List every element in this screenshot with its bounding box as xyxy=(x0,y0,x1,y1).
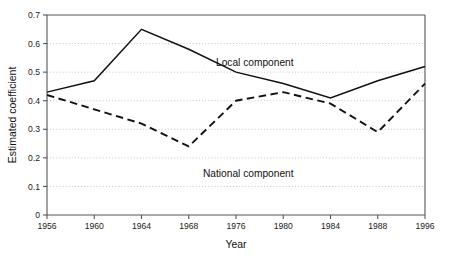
x-axis-ticks xyxy=(47,215,425,219)
x-tick-label: 1988 xyxy=(368,221,387,231)
x-tick-label: 1976 xyxy=(226,221,245,231)
y-tick-label: 0.4 xyxy=(28,96,40,106)
x-tick-label: 1984 xyxy=(321,221,340,231)
x-tick-label: 1956 xyxy=(37,221,56,231)
series-national-component xyxy=(47,84,425,147)
x-tick-label: 1980 xyxy=(274,221,293,231)
x-tick-label: 1968 xyxy=(179,221,198,231)
y-tick-label: 0.1 xyxy=(28,182,40,192)
line-chart: 195619601964196819761980198419881996 00.… xyxy=(0,0,450,263)
series-label-local-component: Local component xyxy=(216,57,294,68)
y-tick-label: 0.3 xyxy=(28,124,40,134)
x-tick-labels: 195619601964196819761980198419881996 xyxy=(37,221,434,231)
axes xyxy=(47,15,425,215)
y-tick-label: 0 xyxy=(35,210,40,220)
y-tick-label: 0.7 xyxy=(28,10,40,20)
y-axis-ticks xyxy=(43,15,47,215)
y-tick-labels: 00.10.20.30.40.50.60.7 xyxy=(28,10,40,220)
x-tick-label: 1964 xyxy=(132,221,151,231)
x-tick-label: 1996 xyxy=(415,221,434,231)
data-series xyxy=(47,29,425,146)
chart-figure: 195619601964196819761980198419881996 00.… xyxy=(0,0,450,263)
x-axis-title: Year xyxy=(225,238,247,250)
series-label-national-component: National component xyxy=(203,168,294,179)
y-tick-label: 0.5 xyxy=(28,67,40,77)
x-tick-label: 1960 xyxy=(85,221,104,231)
y-tick-label: 0.6 xyxy=(28,39,40,49)
y-axis-title: Estimated coefficient xyxy=(6,67,18,164)
y-tick-label: 0.2 xyxy=(28,153,40,163)
